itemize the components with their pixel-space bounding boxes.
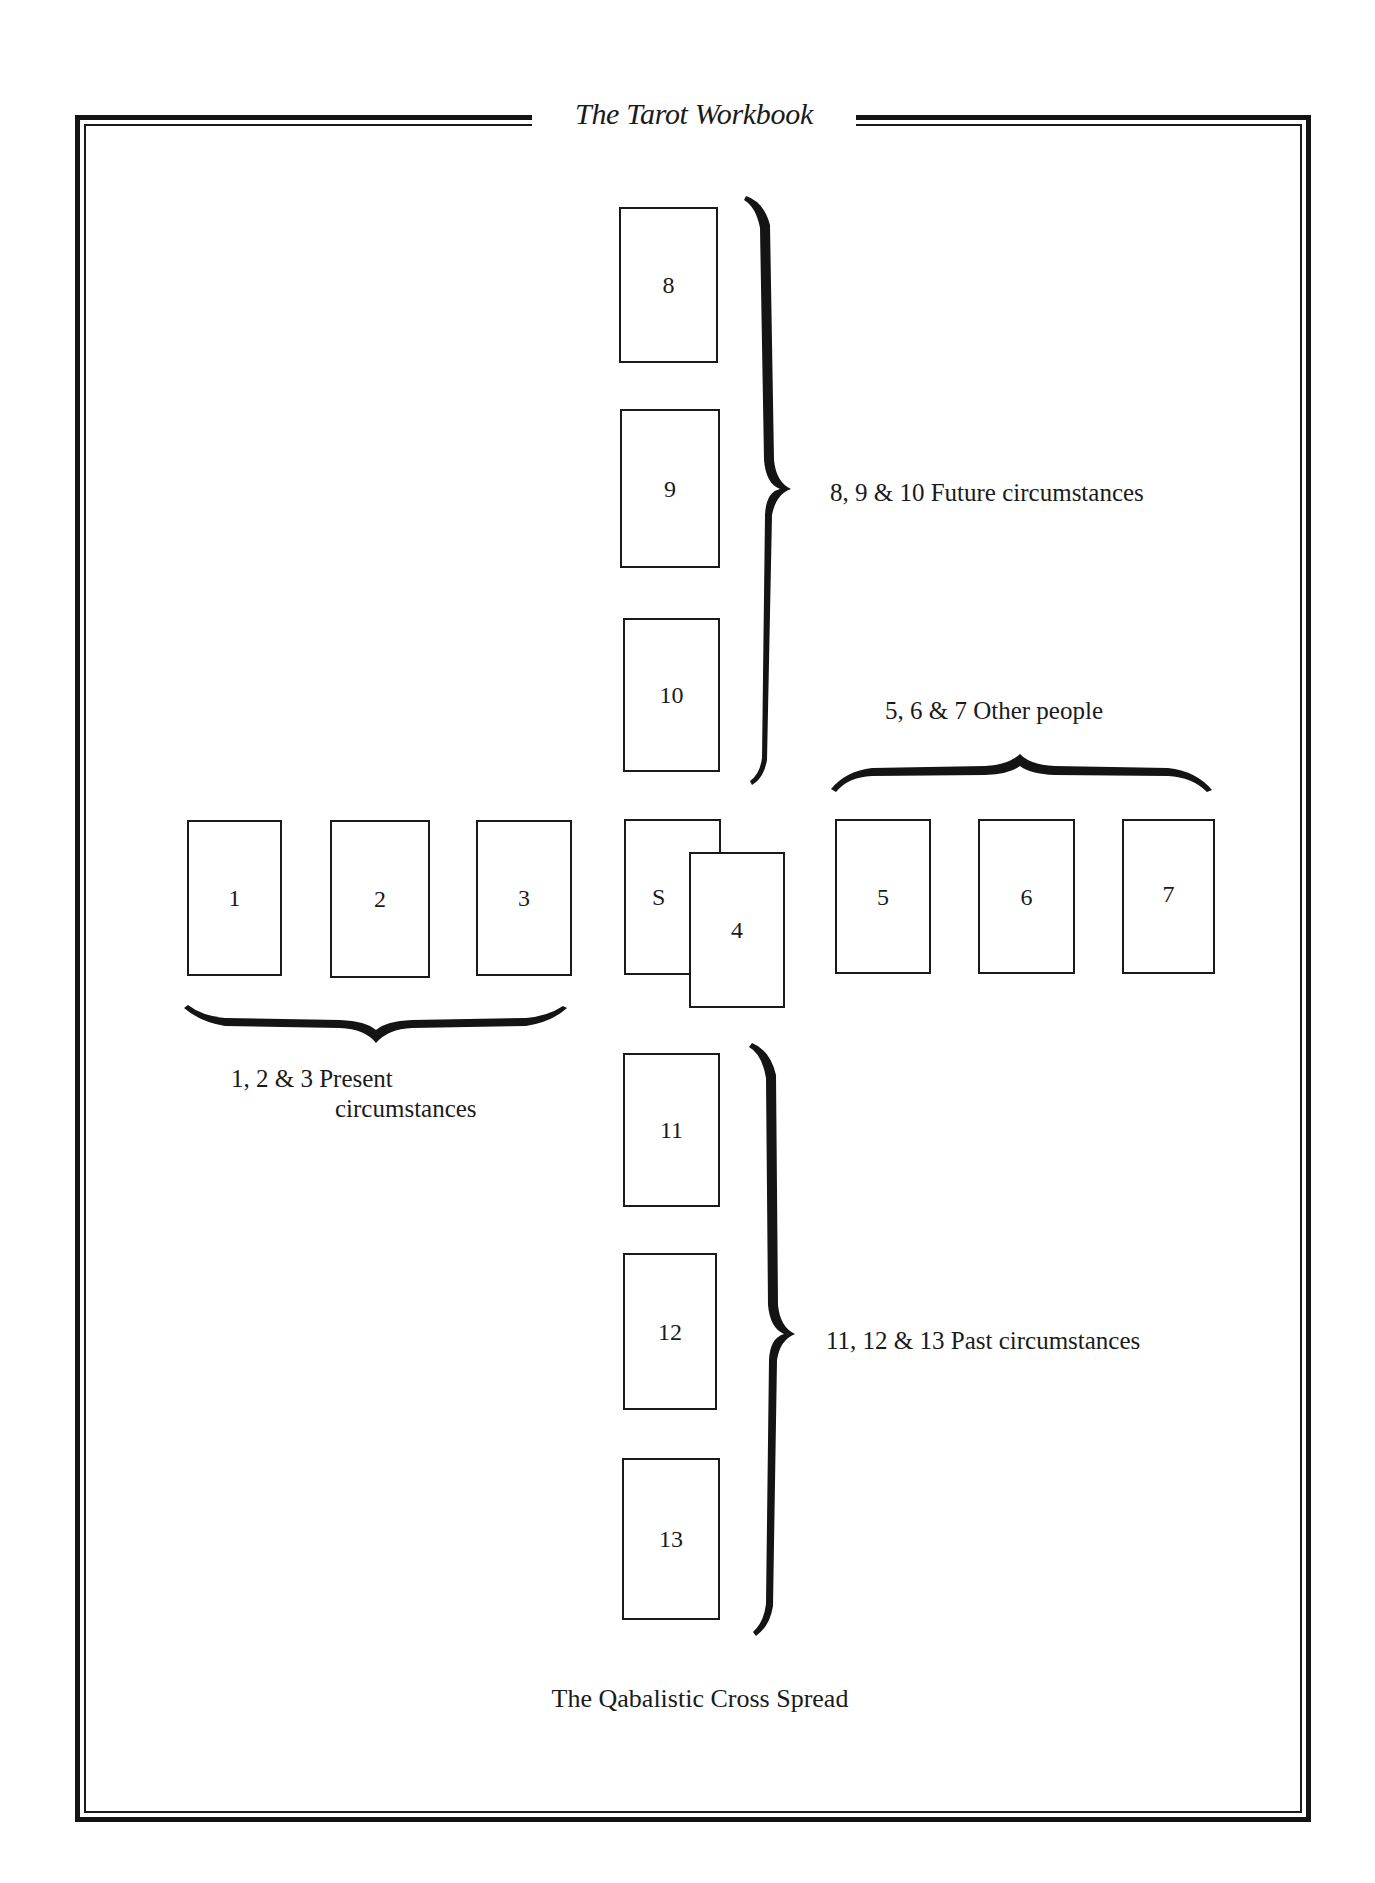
card-number: 4 [731, 918, 743, 942]
card-number: 1 [229, 886, 241, 910]
running-header-title: The Tarot Workbook [532, 96, 856, 132]
card-number: 3 [518, 886, 530, 910]
card-12: 12 [623, 1253, 717, 1410]
present-label-line2: circumstances [335, 1094, 477, 1124]
other-people-label: 5, 6 & 7 Other people [885, 696, 1103, 726]
figure-caption: The Qabalistic Cross Spread [500, 1683, 900, 1715]
card-10: 10 [623, 618, 720, 772]
card-1: 1 [187, 820, 282, 976]
card-number: 9 [664, 477, 676, 501]
card-6: 6 [978, 819, 1075, 974]
card-number: 10 [660, 683, 684, 707]
card-4: 4 [689, 852, 785, 1008]
card-number: 2 [374, 887, 386, 911]
card-number: 13 [659, 1527, 683, 1551]
card-9: 9 [620, 409, 720, 568]
past-label: 11, 12 & 13 Past circumstances [826, 1326, 1140, 1356]
card-5: 5 [835, 819, 931, 974]
card-number: 6 [1021, 885, 1033, 909]
card-number: 8 [663, 273, 675, 297]
card-2: 2 [330, 820, 430, 978]
card-number: S [652, 885, 665, 909]
card-11: 11 [623, 1053, 720, 1207]
card-3: 3 [476, 820, 572, 976]
card-8: 8 [619, 207, 718, 363]
card-number: 7 [1163, 882, 1175, 906]
future-label: 8, 9 & 10 Future circumstances [830, 478, 1144, 508]
card-number: 5 [877, 885, 889, 909]
present-label-line1: 1, 2 & 3 Present [231, 1064, 393, 1094]
card-7: 7 [1122, 819, 1215, 974]
card-13: 13 [622, 1458, 720, 1620]
card-number: 11 [660, 1118, 683, 1142]
card-number: 12 [658, 1320, 682, 1344]
